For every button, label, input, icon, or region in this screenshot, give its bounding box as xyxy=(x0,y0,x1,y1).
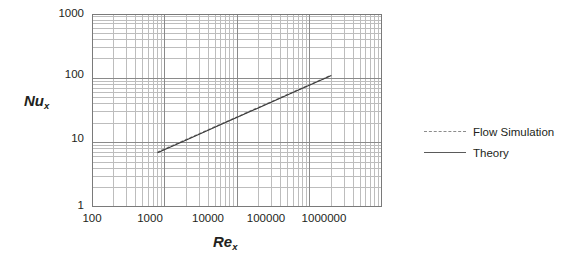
plot-canvas xyxy=(92,14,382,207)
x-axis-title: Rex xyxy=(213,233,237,250)
legend-label-theory: Theory xyxy=(473,147,509,159)
y-tick-label-10: 10 xyxy=(24,133,84,144)
x-axis-title-subscript: x xyxy=(232,241,237,252)
y-tick-label-1: 1 xyxy=(24,200,84,211)
legend-swatch-solid-icon xyxy=(424,152,466,153)
y-axis-title-text: Nu xyxy=(24,92,44,109)
y-tick-label-100: 100 xyxy=(24,69,84,80)
legend-item-theory: Theory xyxy=(424,142,564,163)
y-axis-title: Nux xyxy=(24,92,49,109)
legend: Flow Simulation Theory xyxy=(424,121,564,163)
y-tick-label-1000: 1000 xyxy=(24,8,84,19)
x-axis-title-text: Re xyxy=(213,233,232,250)
x-tick-label-1000000: 1000000 xyxy=(284,212,364,224)
chart-figure: 1000 100 10 1 100 1000 10000 100000 1000… xyxy=(0,0,568,269)
y-axis-title-subscript: x xyxy=(44,100,49,111)
plot-area xyxy=(92,14,382,207)
legend-item-flow-simulation: Flow Simulation xyxy=(424,121,564,142)
legend-label-flow-simulation: Flow Simulation xyxy=(473,126,554,138)
legend-swatch-dashed-icon xyxy=(424,131,466,132)
